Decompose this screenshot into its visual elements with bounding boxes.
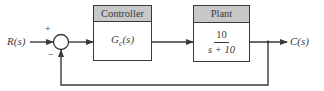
- plus-sign: +: [45, 24, 51, 34]
- plant-tf-numerator: 10: [214, 29, 229, 42]
- controller-tf-symbol: G: [111, 33, 119, 45]
- summing-junction: [54, 35, 69, 50]
- controller-block: Controller Gc(s): [93, 5, 152, 61]
- plant-transfer-function: 10 s + 10: [194, 23, 249, 61]
- minus-sign: −: [48, 50, 54, 60]
- plant-block: Plant 10 s + 10: [193, 5, 250, 62]
- plant-tf-denominator: s + 10: [206, 43, 237, 55]
- controller-block-title: Controller: [94, 6, 151, 22]
- controller-transfer-function: Gc(s): [94, 22, 151, 60]
- controller-tf-suffix: (s): [122, 33, 134, 45]
- output-label: C(s): [290, 36, 309, 47]
- plant-block-title: Plant: [194, 6, 249, 23]
- signal-lines: [0, 0, 324, 91]
- input-label: R(s): [7, 36, 25, 47]
